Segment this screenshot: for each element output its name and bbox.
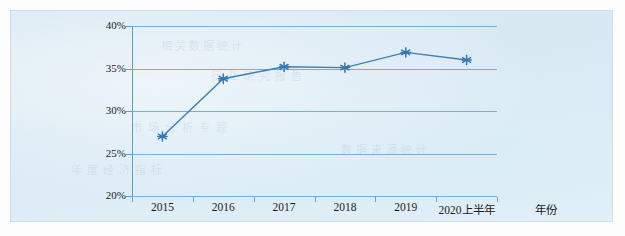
gridline-35% xyxy=(132,69,497,70)
x-tick-label-2017: 2017 xyxy=(273,201,296,213)
y-tick-label: 35% xyxy=(84,62,126,74)
x-tick-mark xyxy=(193,197,194,202)
y-tick-mark xyxy=(126,111,132,112)
x-tick-label-2016: 2016 xyxy=(212,201,235,213)
x-tick-mark xyxy=(436,197,437,202)
x-tick-label-2018: 2018 xyxy=(333,201,356,213)
y-tick-label: 40% xyxy=(84,19,126,31)
y-tick-label: 30% xyxy=(84,104,126,116)
y-tick-mark xyxy=(126,154,132,155)
x-axis-title: 年份 xyxy=(535,201,557,217)
x-tick-mark xyxy=(375,197,376,202)
gridline-30% xyxy=(132,111,497,112)
x-tick-mark xyxy=(254,197,255,202)
x-tick-mark xyxy=(132,197,133,202)
x-tick-label-2020上半年: 2020上半年 xyxy=(439,201,495,217)
y-tick-mark xyxy=(126,69,132,70)
chart-figure: 相关数据统计 行业研究报告 市场分析专题 数据来源统计 年度经济指标 20%25… xyxy=(0,0,625,236)
x-tick-label-2015: 2015 xyxy=(151,201,174,213)
gridline-40% xyxy=(132,26,497,27)
x-tick-mark xyxy=(315,197,316,202)
gridline-25% xyxy=(132,154,497,155)
x-tick-mark xyxy=(497,197,498,202)
plot-area xyxy=(132,26,497,196)
y-tick-label: 25% xyxy=(84,147,126,159)
x-tick-label-2019: 2019 xyxy=(394,201,417,213)
y-tick-label: 20% xyxy=(84,189,126,201)
y-tick-mark xyxy=(126,26,132,27)
